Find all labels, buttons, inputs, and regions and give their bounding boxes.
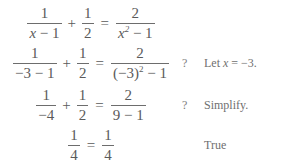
equals-operator: = <box>96 56 104 71</box>
denominator: 2 <box>77 105 89 123</box>
question-marker: ? <box>182 98 204 113</box>
denominator-constant: 1 <box>145 25 153 41</box>
annotation: ? Simplify. <box>182 98 285 113</box>
fraction-left-first: 1 −3 − 1 <box>13 45 56 80</box>
denominator: x − 1 <box>27 23 61 41</box>
denominator-operator: − <box>147 65 155 81</box>
plus-operator: + <box>68 16 76 31</box>
fraction-left-first: 1 4 <box>68 127 80 162</box>
numerator: 2 <box>130 5 142 22</box>
equation-line: 1 4 = 1 4 True <box>0 124 285 166</box>
equation-expression: 1 x − 1 + 1 2 = 2 x2 − 1 <box>0 5 182 40</box>
question-marker: ? <box>182 56 204 71</box>
denominator-constant: 1 <box>47 65 55 81</box>
equals-operator: = <box>87 138 95 153</box>
denominator-value: 9 <box>113 107 121 123</box>
denominator-value: −3 <box>15 65 31 81</box>
plus-operator: + <box>63 56 71 71</box>
equation-line: 1 −3 − 1 + 1 2 = 2 (−3)2 − 1 ? Let x = −… <box>0 42 285 84</box>
denominator-constant: 1 <box>52 25 60 41</box>
denominator-operator: − <box>35 65 43 81</box>
numerator: 2 <box>122 87 134 104</box>
fraction-left-second: 1 2 <box>77 87 89 122</box>
numerator: 1 <box>102 127 114 144</box>
numerator: 1 <box>41 87 53 104</box>
numerator: 1 <box>68 127 80 144</box>
equation-check-worksheet: 1 x − 1 + 1 2 = 2 x2 − 1 1 −3 − 1 <box>0 0 285 166</box>
equation-expression: 1 −3 − 1 + 1 2 = 2 (−3)2 − 1 <box>0 45 182 80</box>
equals-operator: = <box>95 98 103 113</box>
equation-line: 1 −4 + 1 2 = 2 9 − 1 ? Simplify. <box>0 84 285 126</box>
denominator: 4 <box>68 145 80 163</box>
denominator: −3 − 1 <box>13 63 56 81</box>
denominator-constant: 1 <box>136 107 144 123</box>
numerator: 2 <box>134 45 146 62</box>
fraction-left-second: 1 2 <box>77 45 89 80</box>
numerator: 1 <box>77 45 89 62</box>
annotation-prefix: Let <box>204 56 223 70</box>
annotation: ? Let x = −3. <box>182 56 285 71</box>
denominator-operator: − <box>133 25 141 41</box>
annotation-suffix: = −3. <box>228 56 257 70</box>
numerator: 1 <box>82 5 94 22</box>
annotation: True <box>182 138 285 153</box>
equals-operator: = <box>101 16 109 31</box>
equation-expression: 1 4 = 1 4 <box>0 127 182 162</box>
fraction-left-first: 1 −4 <box>36 87 56 122</box>
denominator: 2 <box>77 63 89 81</box>
fraction-left-second: 1 2 <box>82 5 94 40</box>
fraction-right: 2 (−3)2 − 1 <box>111 45 169 80</box>
fraction-right: 2 9 − 1 <box>111 87 146 122</box>
denominator-variable: x <box>118 25 125 41</box>
annotation-text: Simplify. <box>204 98 248 113</box>
exponent: 2 <box>139 64 144 74</box>
denominator: 4 <box>102 145 114 163</box>
denominator: 2 <box>82 23 94 41</box>
numerator: 1 <box>29 45 41 62</box>
denominator-variable: x <box>29 25 36 41</box>
denominator: 9 − 1 <box>111 105 146 123</box>
fraction-right: 1 4 <box>102 127 114 162</box>
denominator: −4 <box>36 105 56 123</box>
denominator-constant: 1 <box>159 65 167 81</box>
plus-operator: + <box>62 98 70 113</box>
denominator: x2 − 1 <box>116 23 155 41</box>
equation-expression: 1 −4 + 1 2 = 2 9 − 1 <box>0 87 182 122</box>
fraction-left-first: 1 x − 1 <box>27 5 61 40</box>
equation-line: 1 x − 1 + 1 2 = 2 x2 − 1 <box>0 2 285 44</box>
annotation-text: True <box>204 138 226 153</box>
fraction-right: 2 x2 − 1 <box>116 5 155 40</box>
denominator-operator: − <box>124 107 132 123</box>
denominator-operator: − <box>40 25 48 41</box>
numerator: 1 <box>77 87 89 104</box>
numerator: 1 <box>39 5 51 22</box>
denominator-value: (−3) <box>113 65 139 81</box>
denominator: (−3)2 − 1 <box>111 63 169 81</box>
annotation-text: Let x = −3. <box>204 56 257 71</box>
exponent: 2 <box>125 24 130 34</box>
